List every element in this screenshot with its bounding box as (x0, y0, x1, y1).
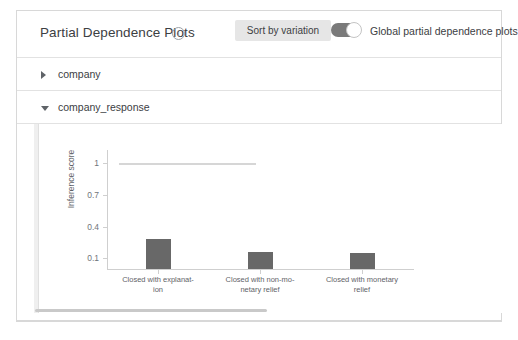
x-tick-label-line: ion (115, 285, 201, 295)
accordion-item-company[interactable]: company (17, 58, 501, 91)
caret-right-icon (41, 71, 46, 79)
toggle-knob (346, 22, 362, 38)
bar-chart: Inference score 10.70.40.1Closed with ex… (39, 124, 502, 313)
accordion-item-label: company_response (58, 101, 150, 113)
y-axis-title: Inference score (66, 139, 76, 219)
caret-down-icon (41, 106, 49, 111)
y-tick-mark (103, 258, 107, 259)
partial-dependence-card: Partial Dependence Plots i Sort by varia… (16, 10, 502, 322)
bar[interactable] (350, 253, 375, 269)
y-tick-label: 1 (73, 158, 99, 168)
y-tick-label: 0.7 (73, 190, 99, 200)
x-tick-mark (158, 270, 159, 274)
info-icon[interactable]: i (172, 27, 185, 40)
x-tick-mark (260, 270, 261, 274)
accordion-item-label: company (58, 68, 101, 80)
card-bottom-divider (17, 320, 501, 321)
y-axis-line (107, 150, 108, 270)
chart-panel: Inference score 10.70.40.1Closed with ex… (18, 124, 502, 313)
card-header: Partial Dependence Plots i Sort by varia… (17, 11, 501, 58)
x-tick-label-line: Closed with explanat- (115, 275, 201, 285)
x-tick-label-line: Closed with monetary (319, 275, 405, 285)
global-partial-dependence-toggle[interactable] (331, 22, 362, 38)
reference-line (119, 163, 256, 165)
x-tick-label: Closed with monetaryrelief (319, 275, 405, 294)
accordion-item-company-response[interactable]: company_response (17, 91, 501, 124)
y-tick-mark (103, 163, 107, 164)
x-tick-label: Closed with explanat-ion (115, 275, 201, 294)
bar[interactable] (146, 239, 171, 269)
sort-by-variation-button[interactable]: Sort by variation (235, 20, 331, 41)
y-tick-label: 0.1 (73, 253, 99, 263)
x-tick-label-line: Closed with non-mo- (217, 275, 303, 285)
x-tick-label-line: relief (319, 285, 405, 295)
x-tick-label: Closed with non-mo-netary relief (217, 275, 303, 294)
x-tick-label-line: netary relief (217, 285, 303, 295)
toggle-label: Global partial dependence plots (370, 25, 518, 37)
y-tick-label: 0.4 (73, 222, 99, 232)
bar[interactable] (248, 252, 273, 269)
horizontal-scrollbar[interactable] (35, 309, 267, 312)
y-tick-mark (103, 227, 107, 228)
y-tick-mark (103, 195, 107, 196)
x-tick-mark (362, 270, 363, 274)
